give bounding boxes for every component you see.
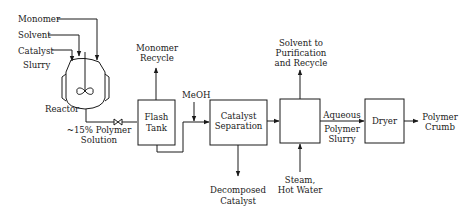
steam-stripper-box: [280, 99, 320, 143]
polymer-solution-line: [86, 109, 114, 122]
catalyst-separation-label-2: Separation: [210, 121, 267, 131]
monomer-recycle-label-2: Recycle: [129, 53, 185, 63]
catalyst-separation-label-1: Catalyst: [210, 111, 267, 121]
slurry-label-3: Slurry: [320, 134, 364, 144]
catalyst-feed-label-2: Slurry: [23, 60, 50, 70]
polymer-solution-label-1: ~15% Polymer: [66, 125, 132, 135]
catalyst-feed-label-1: Catalyst: [18, 46, 54, 56]
slurry-label-1: Aqueous: [320, 110, 364, 120]
monomer-feed-line: [57, 19, 97, 60]
product-label-1: Polymer: [418, 112, 462, 122]
solvent-feed-label: Solvent: [18, 30, 51, 40]
meoh-label: MeOH: [182, 90, 210, 100]
steam-label-1: Steam,: [276, 175, 324, 185]
reactor-jacket-right: [105, 74, 109, 101]
steam-label-2: Hot Water: [270, 185, 330, 195]
dryer-label: Dryer: [365, 116, 404, 126]
polymer-solution-label-2: Solution: [66, 135, 132, 145]
flash-tank-label-2: Tank: [138, 123, 175, 133]
product-label-2: Crumb: [418, 122, 462, 132]
solvent-out-label-3: and Recycle: [270, 58, 332, 68]
monomer-feed-label: Monomer: [18, 14, 60, 24]
slurry-label-2: Polymer: [320, 124, 364, 134]
reactor-label: Reactor: [45, 104, 79, 114]
reactor-jacket-left: [62, 74, 66, 101]
catalyst-feed-line: [52, 50, 72, 61]
decomposed-catalyst-label-2: Catalyst: [206, 196, 270, 206]
solvent-out-label-1: Solvent to: [270, 38, 332, 48]
monomer-recycle-label-1: Monomer: [129, 43, 185, 53]
solvent-out-label-2: Purification: [270, 48, 332, 58]
decomposed-catalyst-label-1: Decomposed: [206, 185, 270, 195]
flash-tank-label-1: Flash: [138, 112, 175, 122]
